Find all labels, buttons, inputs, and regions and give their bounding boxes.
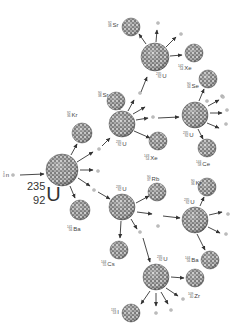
neutron-isotope-numbers: 1 0 [3,172,5,179]
arrow-icon [78,178,90,186]
atomic-number: 56 [185,260,190,263]
ce-nucleus-icon [198,139,216,157]
u-nucleus-icon [141,43,169,71]
element-symbol: U [122,186,126,192]
atomic-number: 54 [144,158,149,161]
initial-uranium-z: 92 [33,195,45,206]
isotope-numbers: 10940 [188,293,193,300]
isotope-numbers: 9037 [147,176,151,183]
isotope-numbers: 14455 [101,261,106,268]
isotope-numbers: 23592 [156,73,161,80]
incoming-neutron-icon [11,173,14,176]
ba-nucleus-icon [201,251,219,269]
atomic-number: 92 [156,76,161,79]
u-nucleus-icon [182,102,208,128]
arrow-icon [170,55,182,56]
kr-nucleus-icon [72,123,92,143]
rb-nucleus-icon [148,183,166,201]
element-symbol: Rb [152,176,160,182]
arrow-icon [137,212,152,214]
nucleus-label-sr2: 9238Sr [108,22,119,29]
isotope-numbers: 9036 [191,180,195,187]
nucleus-label-sr1: 9038Sr [98,92,109,99]
atomic-number: 38 [108,25,112,28]
neutron-icon [181,297,184,300]
neutron-icon [169,308,172,311]
neutron-icon [179,32,182,35]
nucleus-label-u2: 23592U [116,141,127,148]
arrow-icon [128,100,134,111]
neutron-icon [221,95,224,98]
arrow-icon [161,292,168,304]
element-symbol: Sr [113,22,119,28]
isotope-numbers: 13153 [111,309,116,316]
initial-uranium-label: 235 92 U [27,181,61,206]
atomic-number: 56 [67,229,72,232]
atomic-number: 58 [196,164,201,167]
arrow-icon [163,216,180,218]
nucleus-label-zr1: 10940Zr [188,293,200,300]
isotope-numbers: 23592 [184,199,189,206]
atomic-number: 36 [191,183,195,186]
element-symbol: Sr [103,92,109,98]
arrow-icon [207,123,219,128]
isotope-numbers: 23592 [116,186,121,193]
neutron-icon [205,99,208,102]
arrow-icon [102,138,110,146]
isotope-numbers: 23592 [183,132,188,139]
arrow-icon [198,129,203,139]
arrow-icon [120,221,121,238]
nucleus-label-kr1: 9236Kr [67,112,78,119]
nuclei-layer [46,18,219,322]
isotope-numbers: 9238 [108,22,112,29]
xe-nucleus-icon [149,132,167,150]
incoming-neutron-label: 1 0 n [3,172,9,179]
element-symbol: Kr [72,112,78,118]
zr-nucleus-icon [186,269,204,287]
atomic-number: 92 [157,259,162,262]
neutron-icon [151,115,154,118]
element-symbol: U [122,141,126,147]
element-symbol: Se [192,83,199,89]
arrow-icon [199,89,204,101]
u-nucleus-icon [109,111,135,137]
element-symbol: U [163,256,167,262]
element-symbol: Xe [184,65,191,71]
element-symbol: Cs [107,261,114,267]
atomic-number: 92 [116,189,121,192]
neutron-icon [154,311,157,314]
neutron-icon [226,212,229,215]
element-symbol: Ba [73,226,80,232]
nucleus-label-ba2: 14456Ba [185,257,199,264]
isotope-numbers: 9034 [187,83,191,90]
isotope-numbers: 9236 [67,112,71,119]
isotope-numbers: 14458 [196,161,201,168]
u-nucleus-icon [143,264,169,290]
arrow-icon [136,118,148,120]
arrow-icon [200,197,204,206]
arrow-icon [134,131,150,138]
nucleus-label-u3: 23592U [156,73,167,80]
nucleus-label-xe1: 14354Xe [144,155,158,162]
nucleus-label-u7: 23592U [157,256,168,263]
element-symbol: Ce [202,161,210,167]
element-symbol: U [189,132,193,138]
isotope-numbers: 14354 [144,155,149,162]
arrow-icon [71,144,77,155]
arrow-icon [136,196,149,203]
nucleus-label-i1: 13153I [111,309,119,316]
isotope-numbers: 23592 [116,141,121,148]
nucleus-label-ba1: 14156Ba [67,226,81,233]
atomic-number: 53 [111,312,116,315]
element-symbol: I [117,309,119,315]
nucleus-label-u5: 23592U [116,186,127,193]
element-symbol: Xe [150,155,157,161]
atomic-number: 92 [184,202,189,205]
arrow-icon [208,100,219,106]
arrow-icon [156,30,157,42]
arrow-icon [208,227,220,233]
sr-nucleus-icon [122,18,140,36]
u-nucleus-icon [182,207,208,233]
element-symbol: U [190,199,194,205]
i-nucleus-icon [122,304,140,322]
